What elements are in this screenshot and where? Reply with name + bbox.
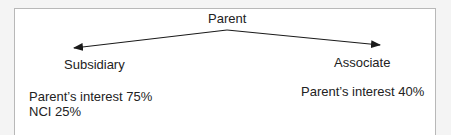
- arrow-to-associate: [227, 30, 380, 45]
- subsidiary-node-label: Subsidiary: [64, 57, 125, 72]
- subsidiary-parent-interest: Parent’s interest 75%: [29, 89, 152, 104]
- parent-node-label: Parent: [208, 11, 246, 26]
- subsidiary-nci: NCI 25%: [29, 104, 81, 119]
- associate-node-label: Associate: [334, 55, 390, 70]
- associate-parent-interest: Parent’s interest 40%: [301, 84, 424, 99]
- arrow-to-subsidiary: [74, 30, 227, 48]
